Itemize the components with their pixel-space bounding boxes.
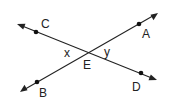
label-c: C xyxy=(41,17,50,31)
point-a-dot xyxy=(137,22,142,27)
arrowhead-right-cd xyxy=(149,75,158,81)
angle-label-x: x xyxy=(64,46,70,60)
arrowhead-left-cd xyxy=(17,24,26,30)
arrowhead-lower-left-ab xyxy=(20,85,28,92)
label-d: D xyxy=(132,80,141,94)
label-a: A xyxy=(142,27,150,41)
point-c-dot xyxy=(34,30,39,35)
intersecting-lines-diagram: C A B D E x y xyxy=(0,0,170,108)
label-b: B xyxy=(39,86,47,100)
point-b-dot xyxy=(35,80,40,85)
angle-label-y: y xyxy=(104,45,110,59)
label-e: E xyxy=(83,58,91,72)
point-d-dot xyxy=(139,71,144,76)
arrowhead-upper-right-ab xyxy=(151,13,159,20)
